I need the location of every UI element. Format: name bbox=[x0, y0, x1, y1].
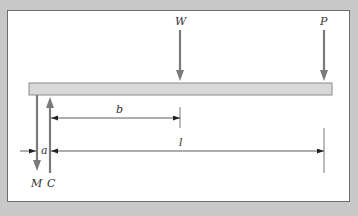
label-p: P bbox=[320, 16, 327, 27]
reaction-c-arrow-icon bbox=[46, 97, 54, 173]
label-w: W bbox=[175, 16, 186, 27]
dimension-l bbox=[51, 128, 324, 173]
load-w-arrow-icon bbox=[176, 30, 184, 81]
beam bbox=[29, 83, 332, 95]
label-b: b bbox=[116, 104, 123, 115]
reaction-m-arrow-icon bbox=[33, 95, 41, 171]
label-l: l bbox=[179, 137, 183, 148]
label-m: M bbox=[31, 178, 42, 189]
load-p-arrow-icon bbox=[320, 30, 328, 81]
label-c: C bbox=[47, 178, 55, 189]
label-a: a bbox=[41, 145, 48, 156]
